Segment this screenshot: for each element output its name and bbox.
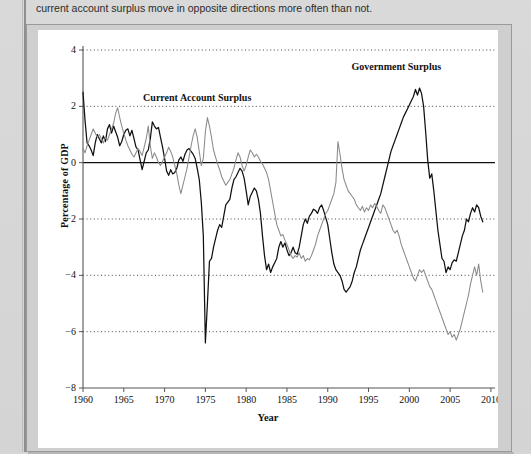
y-tick-label: 2: [38, 101, 76, 111]
x-tick-label: 2000: [389, 394, 429, 405]
x-tick-label: 1965: [104, 394, 144, 405]
series-annotation: Government Surplus: [351, 61, 441, 72]
x-tick-label: 1995: [349, 394, 389, 405]
figure-caption: current account surplus move in opposite…: [36, 2, 506, 15]
y-axis-title: Percentage of GDP: [59, 116, 70, 256]
x-axis-title: Year: [38, 412, 498, 423]
chart-svg: [38, 30, 498, 448]
page-left-rule-light: [22, 0, 23, 452]
y-tick-label: −8: [38, 383, 76, 393]
plot-area: Percentage of GDP Year 420−2−4−6−8 19601…: [38, 30, 498, 448]
x-tick-label: 2010: [471, 394, 498, 405]
x-tick-label: 1960: [63, 394, 103, 405]
x-tick-label: 2005: [430, 394, 470, 405]
y-tick-label: 4: [38, 45, 76, 55]
x-tick-label: 1970: [145, 394, 185, 405]
y-tick-label: 0: [38, 158, 76, 168]
y-tick-label: −4: [38, 270, 76, 280]
x-tick-label: 1990: [308, 394, 348, 405]
x-tick-label: 1985: [267, 394, 307, 405]
x-tick-label: 1980: [226, 394, 266, 405]
chart-panel: Percentage of GDP Year 420−2−4−6−8 19601…: [38, 30, 498, 448]
y-tick-label: −2: [38, 214, 76, 224]
series-annotation: Current Account Surplus: [143, 92, 251, 103]
x-tick-label: 1975: [185, 394, 225, 405]
y-tick-label: −6: [38, 327, 76, 337]
